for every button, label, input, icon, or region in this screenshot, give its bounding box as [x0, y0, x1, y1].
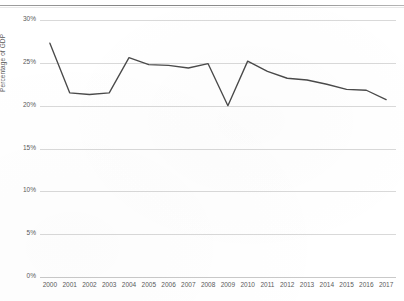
- series-line: [50, 43, 386, 106]
- x-tick-label-2008: 2008: [201, 281, 215, 288]
- y-tick-label-25: 25%: [6, 58, 36, 65]
- x-tick-label-2009: 2009: [221, 281, 235, 288]
- scan-artifact-rule-secondary: [0, 7, 404, 8]
- scan-artifact-rule: [0, 5, 404, 6]
- x-tick-label-2016: 2016: [359, 281, 373, 288]
- x-tick-label-2013: 2013: [300, 281, 314, 288]
- line-series-percentage-of-gdp: [40, 20, 396, 277]
- x-tick-label-2010: 2010: [240, 281, 254, 288]
- y-tick-label-15: 15%: [6, 144, 36, 151]
- x-tick-label-2012: 2012: [280, 281, 294, 288]
- x-tick-label-2015: 2015: [339, 281, 353, 288]
- y-tick-label-10: 10%: [6, 186, 36, 193]
- plot-area: [40, 20, 396, 277]
- gridline-0: [40, 277, 396, 278]
- x-tick-label-2001: 2001: [62, 281, 76, 288]
- x-tick-label-2007: 2007: [181, 281, 195, 288]
- x-tick-label-2005: 2005: [142, 281, 156, 288]
- x-tick-label-2004: 2004: [122, 281, 136, 288]
- y-tick-label-5: 5%: [6, 229, 36, 236]
- y-axis-title: Percentage of GDP: [0, 34, 6, 92]
- x-tick-label-2011: 2011: [260, 281, 274, 288]
- x-tick-label-2002: 2002: [82, 281, 96, 288]
- x-tick-label-2006: 2006: [161, 281, 175, 288]
- y-tick-label-0: 0%: [6, 272, 36, 279]
- x-tick-label-2000: 2000: [43, 281, 57, 288]
- x-tick-label-2017: 2017: [379, 281, 393, 288]
- x-tick-label-2003: 2003: [102, 281, 116, 288]
- x-tick-label-2014: 2014: [320, 281, 334, 288]
- y-tick-label-30: 30%: [6, 15, 36, 22]
- y-tick-label-20: 20%: [6, 101, 36, 108]
- chart-container: 0%5%10%15%20%25%30% 20002001200220032004…: [0, 0, 404, 301]
